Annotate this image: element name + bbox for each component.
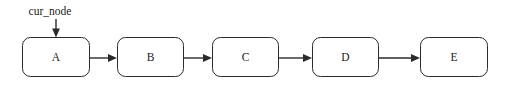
node-c[interactable]: C (213, 38, 279, 77)
cur-node-pointer-arrow (52, 19, 60, 38)
node-d-label: D (341, 51, 349, 63)
node-a-label: A (52, 51, 61, 63)
edge-a-to-b-arrowhead-icon (108, 54, 117, 62)
node-a[interactable]: A (23, 38, 90, 77)
node-b[interactable]: B (118, 38, 184, 77)
edge-b-to-c-arrowhead-icon (203, 54, 212, 62)
linked-list-diagram: cur_node A (0, 0, 511, 90)
node-d[interactable]: D (313, 38, 379, 77)
edge-d-to-e-arrowhead-icon (411, 54, 420, 62)
diagram-svg-canvas: cur_node A (0, 0, 511, 90)
cur-node-pointer-arrowhead-icon (52, 29, 60, 38)
edge-a-to-b (90, 54, 117, 62)
edge-c-to-d (279, 54, 312, 62)
node-b-label: B (147, 51, 155, 63)
edge-d-to-e (379, 54, 420, 62)
node-c-label: C (242, 51, 250, 63)
cur-node-annotation-label: cur_node (29, 5, 72, 17)
edge-c-to-d-arrowhead-icon (303, 54, 312, 62)
node-e[interactable]: E (421, 38, 488, 77)
edge-b-to-c (184, 54, 212, 62)
node-e-label: E (450, 51, 457, 63)
